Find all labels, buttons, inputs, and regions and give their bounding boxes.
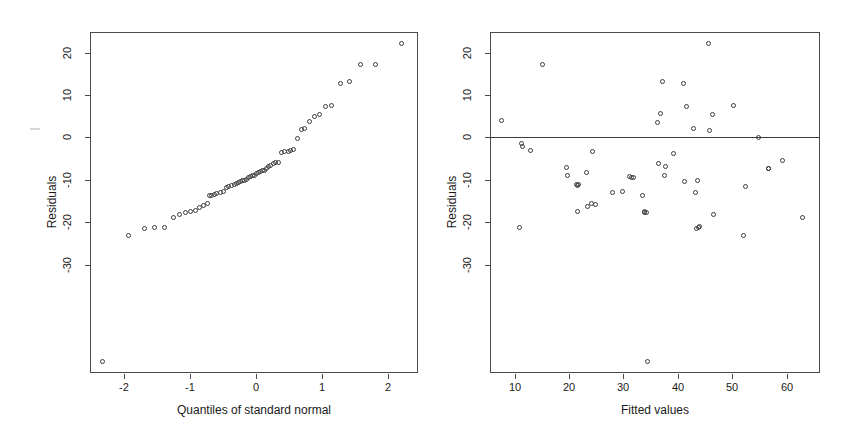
data-point: [743, 184, 748, 189]
qq-y-ticklabel-0: 0: [61, 117, 73, 157]
data-point: [142, 226, 147, 231]
rvf-x-tick-10: [515, 374, 516, 379]
qq-y-ticklabel-minus10: -10: [61, 160, 73, 200]
qq-plot-box: [90, 32, 418, 373]
data-point: [706, 41, 711, 46]
data-point: [590, 149, 595, 154]
qq-y-tick-minus30: [85, 265, 90, 266]
rvf-y-ticklabel-minus20: -20: [461, 202, 473, 242]
data-point: [671, 151, 676, 156]
qq-x-tick-minus2: [124, 374, 125, 379]
data-point: [205, 201, 210, 206]
rvf-x-ticklabel-60: 60: [767, 381, 807, 393]
residuals-vs-fitted-panel: Residuals Fitted values 20 10 0 -10 -20 …: [432, 0, 864, 439]
rvf-y-tick-20: [485, 53, 490, 54]
data-point: [662, 173, 667, 178]
qq-x-tick-1: [322, 374, 323, 379]
qq-y-tick-20: [85, 53, 90, 54]
qq-x-tick-0: [256, 374, 257, 379]
rvf-x-ticklabel-40: 40: [658, 381, 698, 393]
figure-canvas: Residuals Quantiles of standard normal 2…: [0, 0, 864, 439]
data-point: [171, 215, 176, 220]
data-point: [663, 164, 668, 169]
rvf-x-tick-30: [623, 374, 624, 379]
data-point: [691, 126, 696, 131]
qq-x-tick-minus1: [190, 374, 191, 379]
data-point: [329, 103, 334, 108]
data-point: [528, 148, 533, 153]
qq-x-ticklabel-2: 2: [368, 381, 408, 393]
rvf-y-ticklabel-minus10: -10: [461, 160, 473, 200]
data-point: [697, 224, 702, 229]
data-point: [517, 225, 522, 230]
rvf-x-tick-20: [569, 374, 570, 379]
qq-y-axis-title: Residuals: [45, 147, 59, 257]
data-point: [576, 182, 581, 187]
qq-y-ticklabel-20: 20: [61, 33, 73, 73]
rvf-y-tick-minus20: [485, 222, 490, 223]
data-point: [565, 173, 570, 178]
qq-y-tick-minus10: [85, 180, 90, 181]
rvf-x-tick-60: [787, 374, 788, 379]
rvf-x-ticklabel-50: 50: [712, 381, 752, 393]
rvf-y-ticklabel-20: 20: [461, 33, 473, 73]
data-point: [312, 114, 317, 119]
data-point: [658, 111, 663, 116]
data-point: [317, 112, 322, 117]
rvf-zero-reference-line: [490, 137, 820, 138]
data-point: [162, 225, 167, 230]
data-point: [640, 193, 645, 198]
qq-y-tick-10: [85, 95, 90, 96]
data-point: [695, 178, 700, 183]
rvf-y-ticklabel-0: 0: [461, 117, 473, 157]
rvf-x-tick-40: [678, 374, 679, 379]
data-point: [177, 212, 182, 217]
normal-qq-panel: Residuals Quantiles of standard normal 2…: [0, 0, 432, 439]
qq-y-tick-minus20: [85, 222, 90, 223]
data-point: [564, 165, 569, 170]
rvf-x-ticklabel-20: 20: [549, 381, 589, 393]
rvf-y-ticklabel-10: 10: [461, 75, 473, 115]
rvf-y-tick-minus10: [485, 180, 490, 181]
data-point: [307, 119, 312, 124]
rvf-x-axis-title: Fitted values: [495, 403, 815, 417]
rvf-y-tick-0: [485, 137, 490, 138]
rvf-plot-box: [490, 32, 820, 373]
rvf-y-tick-minus30: [485, 265, 490, 266]
rvf-y-ticklabel-minus30: -30: [461, 245, 473, 285]
data-point: [707, 128, 712, 133]
qq-x-ticklabel-minus1: -1: [170, 381, 210, 393]
data-point: [499, 118, 504, 123]
rvf-y-tick-10: [485, 95, 490, 96]
qq-y-ticklabel-minus30: -30: [61, 245, 73, 285]
rvf-y-axis-title: Residuals: [445, 147, 459, 257]
data-point: [644, 210, 649, 215]
data-point: [682, 179, 687, 184]
data-point: [780, 158, 785, 163]
data-point: [800, 215, 805, 220]
qq-x-ticklabel-minus2: -2: [104, 381, 144, 393]
qq-x-ticklabel-1: 1: [302, 381, 342, 393]
qq-y-tick-0: [85, 137, 90, 138]
data-point: [338, 81, 343, 86]
data-point: [295, 136, 300, 141]
data-point: [655, 120, 660, 125]
rvf-x-ticklabel-30: 30: [603, 381, 643, 393]
data-point: [620, 189, 625, 194]
rvf-x-ticklabel-10: 10: [495, 381, 535, 393]
data-point: [684, 104, 689, 109]
qq-x-ticklabel-0: 0: [236, 381, 276, 393]
rvf-x-tick-50: [732, 374, 733, 379]
qq-x-tick-2: [388, 374, 389, 379]
data-point: [276, 160, 281, 165]
qq-y-ticklabel-10: 10: [61, 75, 73, 115]
qq-y-ticklabel-minus20: -20: [61, 202, 73, 242]
qq-x-axis-title: Quantiles of standard normal: [94, 403, 414, 417]
data-point: [323, 104, 328, 109]
